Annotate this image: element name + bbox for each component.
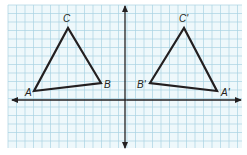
vertex-label: A'	[220, 87, 231, 98]
reflection-diagram: ABCA'B'C'	[0, 0, 247, 155]
vertex-label: C	[63, 13, 71, 24]
vertex-label: A	[24, 87, 32, 98]
vertex-label: B'	[137, 79, 147, 90]
vertex-label: C'	[179, 13, 189, 24]
vertex-label: B	[104, 79, 111, 90]
